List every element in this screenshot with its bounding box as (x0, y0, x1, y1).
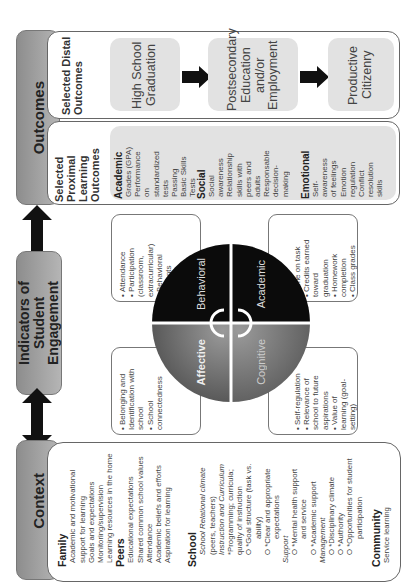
context-peers: Peers Educational expectations Shared co… (114, 449, 172, 567)
affective-label: Affective (195, 339, 207, 385)
distal-outcome-productive-citizenry: Productive Citizenry (328, 38, 394, 111)
context-header-label: Context (30, 473, 47, 529)
bullet-item: • Homework completion (330, 241, 348, 297)
distal-outcome-postsecondary: Postsecondary Education and/or Employmen… (208, 38, 298, 111)
outcomes-header-label: Outcomes (30, 81, 47, 154)
bullet-item: • Participation (classroom, extracurricu… (127, 227, 155, 297)
proximal-academic-title: Academic (113, 127, 124, 199)
proximal-social-group: Social Social awareness Relationship ski… (196, 127, 290, 199)
arrow-right-icon (300, 66, 330, 88)
proximal-social-title: Social (196, 127, 207, 199)
behavioral-label: Behavioral (195, 258, 207, 310)
bullet-item: • Class grades (348, 221, 357, 297)
proximal-academic-group: Academic Grades (GPA) Performance on sta… (113, 127, 198, 199)
context-community: Community Service learning (370, 449, 392, 567)
engagement-header-label: Indicators of Student Engagement (17, 263, 61, 383)
engagement-header: Indicators of Student Engagement (16, 251, 62, 395)
proximal-outcomes-label: Selected Proximal Learning Outcomes (53, 124, 101, 202)
bullet-item: • Belonging and Identification with scho… (118, 360, 146, 430)
bullet-item: • Value of learning (goal-setting) (330, 370, 358, 430)
arrow-up-icon (22, 205, 52, 253)
bullet-item: • Attendance (118, 221, 127, 297)
proximal-emotional-group: Emotional Self-awareness of feelings Emo… (300, 127, 385, 199)
context-panel: Family Academic and motivational support… (47, 442, 401, 582)
cognitive-label: Cognitive (255, 339, 267, 385)
context-family: Family Academic and motivational support… (56, 449, 114, 567)
context-school: School School Relational climate (peers,… (186, 449, 364, 567)
distal-outcomes-label: Selected Distal Outcomes (60, 35, 84, 115)
proximal-emotional-title: Emotional (300, 127, 311, 199)
distal-outcomes-panel: Selected Distal Outcomes High School Gra… (47, 31, 400, 119)
academic-label: Academic (255, 260, 267, 308)
engagement-circle: Behavioral Academic Affective Cognitive (152, 244, 310, 402)
distal-outcome-high-school-graduation: High School Graduation (110, 38, 180, 111)
